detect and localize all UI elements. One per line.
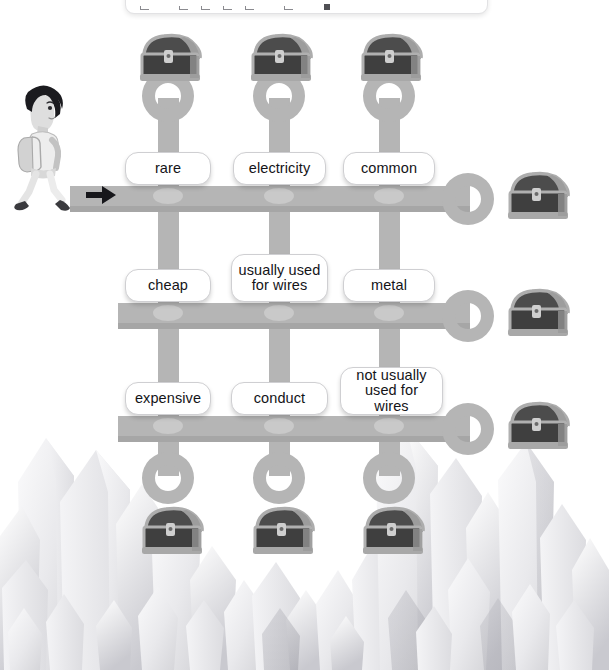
start-arrow-icon bbox=[84, 183, 118, 207]
crop-icon[interactable] bbox=[223, 0, 236, 10]
walking-student-character bbox=[8, 82, 78, 214]
concept-label-conduct[interactable]: conduct bbox=[231, 382, 328, 415]
treasure-chest bbox=[502, 400, 578, 454]
crop-icon[interactable] bbox=[140, 0, 153, 10]
treasure-chest bbox=[136, 505, 212, 559]
treasure-chest bbox=[355, 32, 431, 86]
square-dot-icon[interactable] bbox=[323, 0, 336, 10]
treasure-chest bbox=[502, 287, 578, 341]
treasure-chest bbox=[247, 505, 323, 559]
concept-label-cheap[interactable]: cheap bbox=[125, 269, 211, 302]
concept-label-usually-used-for-wires[interactable]: usually usedfor wires bbox=[231, 254, 328, 302]
concept-label-metal[interactable]: metal bbox=[343, 269, 435, 302]
concept-label-electricity[interactable]: electricity bbox=[233, 152, 326, 185]
crop-icon[interactable] bbox=[201, 0, 214, 10]
treasure-chest bbox=[357, 505, 433, 559]
crop-icon[interactable] bbox=[179, 0, 192, 10]
concept-label-common[interactable]: common bbox=[343, 152, 435, 185]
crop-icon[interactable] bbox=[284, 0, 297, 10]
treasure-chest bbox=[245, 32, 321, 86]
treasure-chest bbox=[134, 32, 210, 86]
concept-label-expensive[interactable]: expensive bbox=[125, 382, 211, 415]
concept-label-rare[interactable]: rare bbox=[125, 152, 211, 185]
treasure-chest bbox=[502, 170, 578, 224]
floating-toolbar[interactable] bbox=[125, 0, 488, 14]
crop-icon[interactable] bbox=[245, 0, 258, 10]
concept-label-not-usually-used-for-wires[interactable]: not usuallyused for wires bbox=[340, 367, 443, 415]
activity-canvas: rare electricity common cheap usually us… bbox=[0, 0, 609, 670]
